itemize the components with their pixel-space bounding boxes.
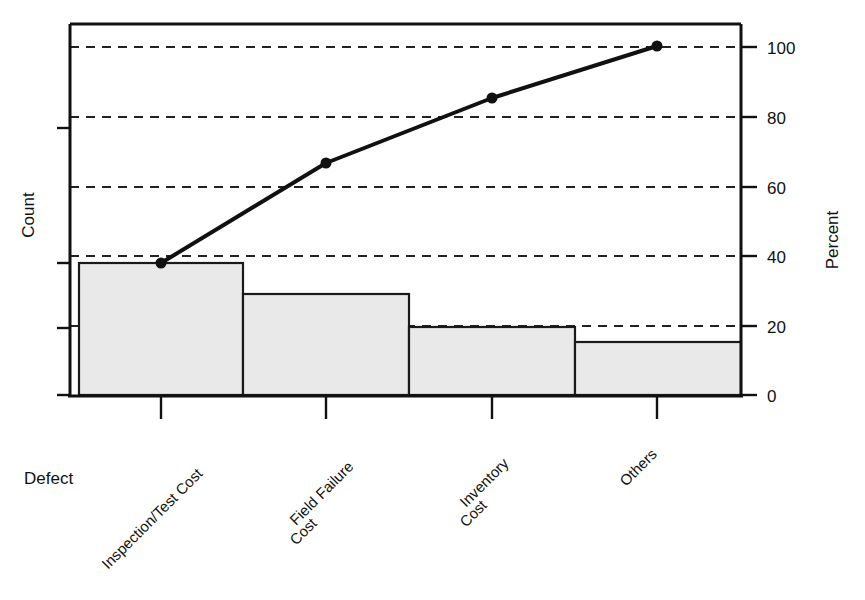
pareto-chart-svg: 0 20 40 60 80 100 Inspection/Test Cost F…: [0, 0, 865, 600]
marker-point-2[interactable]: [321, 158, 332, 169]
marker-point-4[interactable]: [652, 41, 663, 52]
right-tick-label-80: 80: [767, 109, 786, 128]
marker-point-1[interactable]: [156, 258, 167, 269]
right-tick-label-0: 0: [767, 387, 776, 406]
y-axis-title-count: Count: [19, 192, 38, 238]
y2-axis-title-percent: Percent: [823, 210, 842, 269]
bar-inventory-cost[interactable]: [409, 327, 575, 395]
right-tick-label-100: 100: [767, 39, 795, 58]
bar-field-failure-cost[interactable]: [243, 294, 409, 395]
marker-point-3[interactable]: [487, 93, 498, 104]
right-tick-label-40: 40: [767, 248, 786, 267]
bar-others[interactable]: [575, 342, 741, 395]
right-tick-label-20: 20: [767, 318, 786, 337]
pareto-chart: 0 20 40 60 80 100 Inspection/Test Cost F…: [0, 0, 865, 600]
bar-inspection-test-cost[interactable]: [79, 263, 243, 395]
right-tick-label-60: 60: [767, 179, 786, 198]
x-axis-title-defect: Defect: [24, 469, 73, 488]
